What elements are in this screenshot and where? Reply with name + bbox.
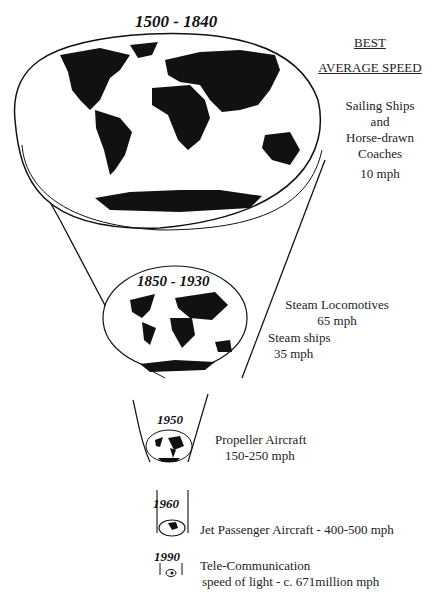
- mode-line: Steam Locomotives: [282, 297, 392, 313]
- mode-line: Propeller Aircraft: [215, 432, 335, 448]
- speed-value: 10 mph: [330, 166, 430, 182]
- mode-line: Sailing Ships: [330, 98, 430, 114]
- speed-value: 65 mph: [282, 313, 392, 329]
- mode-line: Coaches: [330, 146, 430, 162]
- mode-line: Tele-Communication: [200, 558, 379, 574]
- era-1850-1930-title: 1850 - 1930: [137, 273, 210, 290]
- era-1850-1930-ships: Steam ships 35 mph: [268, 330, 348, 362]
- era-1990-modes: Tele-Communication speed of light - c. 6…: [200, 558, 379, 590]
- era-1950-title: 1950: [157, 412, 183, 428]
- header-average-speed: AVERAGE SPEED: [310, 60, 430, 76]
- speed-value: speed of light - c. 671million mph: [200, 574, 379, 590]
- speed-value: 35 mph: [268, 346, 348, 362]
- mode-line: Horse-drawn: [330, 130, 430, 146]
- era-1990-title: 1990: [154, 549, 180, 565]
- header-best: BEST: [330, 35, 410, 51]
- world-map-1990: [166, 570, 176, 577]
- world-map-1950: [146, 430, 192, 462]
- era-1850-1930-locomotives: Steam Locomotives 65 mph: [282, 297, 392, 329]
- era-1960-mode: Jet Passenger Aircraft - 400-500 mph: [200, 522, 394, 538]
- speed-value: 150-250 mph: [215, 448, 335, 464]
- era-1950-modes: Propeller Aircraft 150-250 mph: [215, 432, 335, 464]
- era-1500-1840-title: 1500 - 1840: [135, 12, 217, 32]
- mode-line: Steam ships: [268, 330, 348, 346]
- mode-line: and: [330, 114, 430, 130]
- world-map-1500-1840: [14, 34, 322, 230]
- world-map-1960: [159, 520, 185, 536]
- era-1960-title: 1960: [153, 496, 179, 512]
- era-1500-1840-modes: Sailing Ships and Horse-drawn Coaches 10…: [330, 98, 430, 182]
